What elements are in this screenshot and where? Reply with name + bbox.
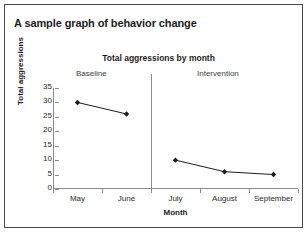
x-axis-tick-mark <box>53 189 54 193</box>
x-axis-tick-mark <box>102 189 103 193</box>
data-point-marker <box>124 111 129 116</box>
page-title: A sample graph of behavior change <box>14 17 197 29</box>
y-axis-tick-mark <box>55 189 59 190</box>
data-point-marker <box>222 169 227 174</box>
y-axis-tick-label: 20 <box>43 125 52 134</box>
x-axis-tick-mark <box>200 189 201 193</box>
plot-area: 05101520253035 MayJuneJulyAugustSeptembe… <box>53 88 298 189</box>
behavior-change-chart: Total aggressions by month Baseline Inte… <box>10 45 307 232</box>
data-point-marker <box>173 157 178 162</box>
x-axis-title: Month <box>53 208 298 217</box>
y-axis-tick-label: 10 <box>43 154 52 163</box>
y-axis-title: Total aggressions <box>16 37 25 105</box>
series-line-baseline <box>78 102 127 114</box>
data-series-group <box>53 88 298 189</box>
y-axis-tick-label: 25 <box>43 111 52 120</box>
x-axis-tick-label: September <box>254 194 293 203</box>
x-axis-tick-mark <box>298 189 299 193</box>
phase-label-intervention: Intervention <box>197 69 239 78</box>
y-axis-tick-label: 5 <box>48 169 52 178</box>
x-axis-tick-label: July <box>168 194 182 203</box>
y-axis-tick-label: 30 <box>43 96 52 105</box>
x-axis-tick-label: May <box>70 194 85 203</box>
chart-title: Total aggressions by month <box>10 53 307 63</box>
x-axis-tick-label: June <box>118 194 135 203</box>
x-axis-tick-mark <box>151 189 152 193</box>
data-point-marker <box>75 100 80 105</box>
x-axis-tick-label: August <box>212 194 237 203</box>
y-axis-tick-label: 0 <box>48 183 52 192</box>
data-point-marker <box>271 172 276 177</box>
screenshot-root: A sample graph of behavior change Total … <box>0 0 307 232</box>
phase-label-baseline: Baseline <box>76 69 107 78</box>
y-axis-tick-label: 15 <box>43 140 52 149</box>
x-axis-tick-mark <box>249 189 250 193</box>
document-frame: A sample graph of behavior change Total … <box>4 4 303 228</box>
y-axis-tick-label: 35 <box>43 82 52 91</box>
